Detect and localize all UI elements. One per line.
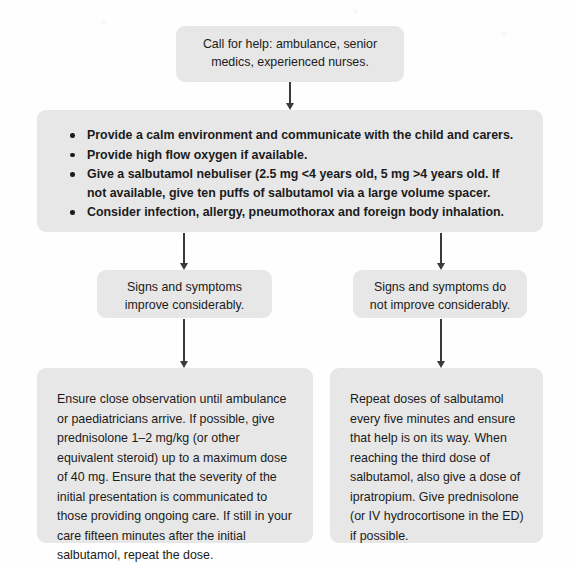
- flow-node-not-improve-actions-text: Repeat doses of salbutamol every five mi…: [350, 390, 529, 546]
- flow-node-not-improve-actions: Repeat doses of salbutamol every five mi…: [330, 368, 543, 543]
- arrowhead-down-icon: [437, 263, 445, 270]
- list-item: Consider infection, allergy, pneumothora…: [87, 203, 525, 222]
- flowchart-page: Call for help: ambulance, senior medics,…: [0, 0, 573, 563]
- arrowhead-down-icon: [286, 103, 294, 110]
- connector-shaft: [183, 233, 185, 263]
- flow-node-improve-actions-text: Ensure close observation until ambulance…: [57, 390, 297, 563]
- immediate-actions-list: Provide a calm environment and communica…: [55, 126, 525, 222]
- connector-shaft: [289, 82, 291, 103]
- flow-node-improve-actions: Ensure close observation until ambulance…: [37, 368, 313, 543]
- list-item: Provide a calm environment and communica…: [87, 126, 525, 145]
- connector-shaft: [183, 319, 185, 361]
- arrowhead-down-icon: [180, 361, 188, 368]
- flow-node-call-for-help-text: Call for help: ambulance, senior medics,…: [196, 35, 384, 71]
- list-item: Provide high flow oxygen if available.: [87, 146, 525, 165]
- arrowhead-down-icon: [180, 263, 188, 270]
- connector-shaft: [440, 233, 442, 263]
- flow-node-signs-improve-text: Signs and symptoms improve considerably.: [111, 278, 258, 314]
- flow-node-signs-not-improve-text: Signs and symptoms do not improve consid…: [365, 278, 515, 314]
- flow-node-call-for-help: Call for help: ambulance, senior medics,…: [176, 26, 404, 82]
- flow-node-signs-improve: Signs and symptoms improve considerably.: [97, 270, 272, 318]
- connector-shaft: [440, 319, 442, 361]
- arrowhead-down-icon: [437, 361, 445, 368]
- flow-node-immediate-actions: Provide a calm environment and communica…: [37, 110, 543, 232]
- flow-node-signs-not-improve: Signs and symptoms do not improve consid…: [353, 270, 527, 318]
- list-item: Give a salbutamol nebuliser (2.5 mg <4 y…: [87, 165, 525, 202]
